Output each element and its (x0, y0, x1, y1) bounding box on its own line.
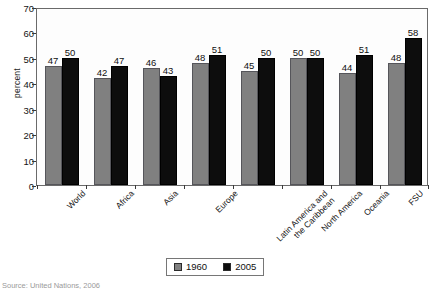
bar-2005: 58 (405, 38, 422, 185)
x-axis-label: Oceania (362, 189, 391, 218)
plot-frame: 47504247464348514550505044514858 (36, 8, 428, 186)
bar-value-label: 50 (255, 48, 277, 58)
bar-group: 4643 (143, 9, 177, 185)
bar-value-label: 51 (353, 45, 375, 55)
bar-2005: 51 (356, 55, 373, 185)
bar-1960: 50 (290, 58, 307, 185)
bar-1960: 45 (241, 71, 258, 185)
bar-value-label: 50 (304, 48, 326, 58)
bar-2005: 50 (258, 58, 275, 185)
x-axis-label: Europe (214, 189, 240, 215)
bar-value-label: 47 (108, 56, 130, 66)
y-axis-tick-label: 30 (8, 104, 34, 115)
y-axis-tick-label: 10 (8, 155, 34, 166)
legend-item: 1960 (174, 261, 207, 272)
y-axis-tick-label: 20 (8, 130, 34, 141)
bar-1960: 46 (143, 68, 160, 185)
bar-value-label: 50 (59, 48, 81, 58)
chart-legend: 19602005 (166, 258, 264, 276)
y-axis-ticks: 010203040506070 (4, 0, 34, 290)
bar-1960: 48 (192, 63, 209, 185)
bar-group: 4451 (339, 9, 373, 185)
plot-area: 47504247464348514550505044514858 (37, 9, 427, 185)
bar-1960: 48 (388, 63, 405, 185)
x-axis-label: FSU (406, 189, 425, 208)
legend-label: 2005 (235, 261, 256, 272)
bar-1960: 47 (45, 66, 62, 186)
bar-value-label: 58 (402, 28, 424, 38)
bar-1960: 42 (94, 78, 111, 185)
y-axis-tick-label: 70 (8, 3, 34, 14)
x-axis-label: Africa (114, 189, 136, 211)
x-axis-label: Asia (161, 189, 179, 207)
x-axis-tick-mark (428, 185, 429, 189)
y-axis-tick-label: 0 (8, 181, 34, 192)
bar-2005: 43 (160, 76, 177, 185)
legend-item: 2005 (223, 261, 256, 272)
bar-group: 4247 (94, 9, 128, 185)
bar-group: 4750 (45, 9, 79, 185)
bar-group: 4851 (192, 9, 226, 185)
bar-2005: 50 (62, 58, 79, 185)
y-axis-tick-label: 60 (8, 28, 34, 39)
bar-1960: 44 (339, 73, 356, 185)
bar-2005: 51 (209, 55, 226, 185)
bar-chart: percent 010203040506070 4750424746434851… (0, 0, 436, 290)
bar-group: 4858 (388, 9, 422, 185)
bar-value-label: 43 (157, 66, 179, 76)
bar-2005: 50 (307, 58, 324, 185)
legend-swatch-icon (174, 263, 182, 271)
y-axis-tick-label: 40 (8, 79, 34, 90)
y-axis-tick-label: 50 (8, 53, 34, 64)
legend-label: 1960 (186, 261, 207, 272)
x-axis-label: World (65, 189, 87, 211)
bar-group: 4550 (241, 9, 275, 185)
bar-2005: 47 (111, 66, 128, 186)
bar-group: 5050 (290, 9, 324, 185)
legend-swatch-icon (223, 263, 231, 271)
bar-value-label: 51 (206, 45, 228, 55)
x-axis-category-labels: WorldAfricaAsiaEuropeLatin America and t… (36, 186, 428, 256)
source-note: Source: United Nations, 2006 (2, 281, 100, 290)
